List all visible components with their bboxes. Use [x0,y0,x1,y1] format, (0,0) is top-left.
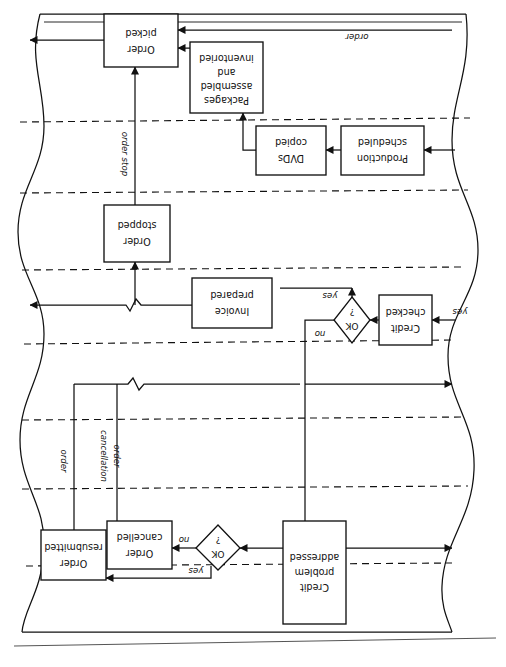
node-credit-problem-addressed[interactable]: Credit problem addressed [283,521,346,624]
node-creditproblem-line-2: addressed [290,552,340,563]
node-packages-assembled[interactable]: Packages assembled and inventoried [190,42,263,113]
node-packages-line-3: inventoried [199,53,254,64]
label-order-cancellation: order cancellation [99,430,122,482]
flowchart-svg: Order picked Packages assembled and inve… [0,0,506,667]
node-dvds-line-0: DVDs [278,153,304,164]
label-yes-lower: yes [188,566,204,576]
node-dvds-copied[interactable]: DVDs copied [256,126,326,175]
label-no-lower: no [179,535,190,545]
node-production-line-0: Production [357,153,408,164]
node-order-picked-line-1: picked [125,28,156,39]
edge-invoice-out-left [30,299,192,311]
node-packages-line-2: and [217,67,235,78]
node-dvds-line-1: copied [275,137,307,148]
node-orderresubmitted-line-1: resubmitted [44,542,102,553]
node-orderstopped-line-0: Order [123,236,150,247]
lane-divider-1 [20,118,470,122]
node-packages-line-1: assembled [201,81,253,92]
label-order-left: order [59,449,69,473]
node-invoice-line-0: Invoice [215,306,249,317]
label-order-cancellation-line-1: cancellation [99,430,109,482]
lane-divider-6 [22,486,468,489]
node-credit-checked[interactable]: Credit checked [379,295,432,345]
svg-text:no: no [315,329,326,339]
lane-divider-2 [20,190,468,193]
svg-text:order: order [59,449,69,473]
node-order-picked[interactable]: Order picked [104,14,178,67]
node-oklower-line-0: OK [210,549,224,559]
node-order-picked-line-0: Order [127,44,154,55]
page-canvas: Order picked Packages assembled and inve… [0,0,506,667]
swimlane-flowchart: Order picked Packages assembled and inve… [0,0,506,667]
label-yes-upper: yes [322,291,338,301]
svg-text:yes: yes [188,566,204,576]
node-invoice-line-1: prepared [210,290,253,301]
svg-text:order: order [345,32,369,42]
label-order-cancellation-line-0: order [112,444,122,468]
node-creditproblem-line-0: Credit [300,582,329,593]
label-yes-right-entry: yes [452,307,468,317]
svg-text:order stop: order stop [120,132,130,177]
node-packages-line-0: Packages [204,95,249,106]
node-order-stopped[interactable]: Order stopped [104,205,170,262]
lane-divider-5 [22,417,466,420]
node-okupper-line-1: ? [349,307,354,317]
node-oklower-line-1: ? [215,535,220,545]
node-okupper-line-0: OK [344,321,358,331]
node-creditchecked-line-1: checked [386,307,426,318]
label-order-stop: order stop [120,132,130,177]
svg-text:no: no [179,535,190,545]
node-ordercancelled-line-0: Order [126,548,153,559]
node-orderstopped-line-1: stopped [118,220,157,231]
node-order-cancelled[interactable]: Order cancelled [107,521,172,569]
node-creditproblem-line-1: problem [295,567,335,578]
node-invoice-prepared[interactable]: Invoice prepared [192,278,272,328]
node-ordercancelled-line-1: cancelled [117,532,163,543]
svg-text:yes: yes [322,291,338,301]
node-ok-decision-lower[interactable]: OK ? [196,525,240,570]
svg-text:yes: yes [452,307,468,317]
edge-mid-rail [74,378,300,390]
label-order-top: order [345,32,369,42]
node-production-line-1: scheduled [358,137,407,148]
node-ok-decision-upper[interactable]: OK ? [334,297,370,343]
node-orderresubmitted-line-0: Order [60,558,87,569]
label-no-upper: no [315,329,326,339]
node-creditchecked-line-0: Credit [391,323,420,334]
node-order-resubmitted[interactable]: Order resubmitted [41,530,106,580]
lane-divider-3 [22,267,462,270]
edge-dvds-to-packages [243,113,256,150]
node-production-scheduled[interactable]: Production scheduled [341,126,424,175]
